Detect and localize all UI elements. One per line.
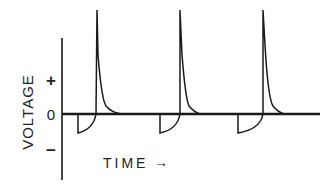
voltage-time-diagram: VOLTAGE + 0 − TIME → <box>0 0 333 188</box>
x-axis-label: TIME <box>103 155 148 171</box>
y-axis-label: VOLTAGE <box>19 74 36 150</box>
spike <box>96 10 122 114</box>
y-tick-plus: + <box>46 71 56 90</box>
y-tick-minus: − <box>46 141 56 160</box>
x-axis-arrow-icon: → <box>154 154 168 170</box>
negative-dip <box>160 114 180 133</box>
spike <box>180 10 200 114</box>
spike <box>263 10 284 114</box>
y-tick-zero: 0 <box>47 106 55 123</box>
negative-dip <box>78 114 96 133</box>
negative-dip <box>238 114 263 133</box>
